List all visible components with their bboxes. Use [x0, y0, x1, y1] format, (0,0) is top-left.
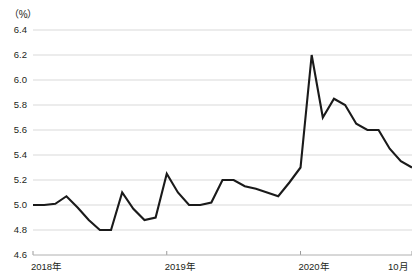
- chart-plot-area: [0, 0, 412, 279]
- unemployment-rate-line-chart: （%） 4.64.85.05.25.45.65.86.06.26.4 2018年…: [0, 0, 412, 279]
- gridlines-group: [33, 30, 412, 230]
- x-axis-ticks-group: [33, 251, 412, 255]
- data-series-line: [33, 55, 412, 230]
